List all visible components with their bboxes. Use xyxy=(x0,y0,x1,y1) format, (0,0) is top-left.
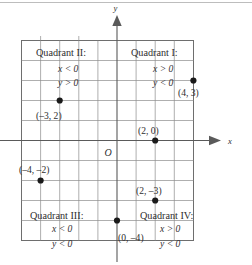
point-label-4-3: (4, 3) xyxy=(178,87,199,99)
quadrant-4-title: Quadrant IV: xyxy=(140,210,193,221)
quadrant-3-title: Quadrant III: xyxy=(30,210,83,221)
quadrant-1-y-condition: y < 0 xyxy=(152,77,174,88)
quadrant-4-y-condition: y < 0 xyxy=(159,238,181,249)
y-axis-label: y xyxy=(113,3,118,13)
x-axis-label: x xyxy=(227,136,232,146)
quadrant-2-title: Quadrant II: xyxy=(36,47,86,58)
point-label-2-0: (2, 0) xyxy=(138,125,159,137)
coordinate-plane-svg: x y O Quadrant II: x < 0 y > 0 Quadrant … xyxy=(0,0,252,265)
point-label-0-neg4: (0, –4) xyxy=(118,232,144,244)
quadrant-2-y-condition: y > 0 xyxy=(57,77,79,88)
point-label-neg3-2: (–3, 2) xyxy=(36,110,62,122)
point-label-neg4-neg2: (–4, –2) xyxy=(19,164,49,176)
quadrant-1-title: Quadrant I: xyxy=(131,47,178,58)
point-label-2-neg3: (2, –3) xyxy=(136,185,162,197)
quadrant-3-y-condition: y < 0 xyxy=(51,238,73,249)
quadrant-4-x-condition: x > 0 xyxy=(159,223,181,234)
quadrant-1-x-condition: x > 0 xyxy=(152,63,174,74)
quadrant-3-x-condition: x < 0 xyxy=(51,223,73,234)
origin-label: O xyxy=(105,147,112,158)
quadrant-2-x-condition: x < 0 xyxy=(57,63,79,74)
top-edge-ticks xyxy=(41,36,79,41)
coordinate-plane-figure: x y O Quadrant II: x < 0 y > 0 Quadrant … xyxy=(0,0,252,265)
